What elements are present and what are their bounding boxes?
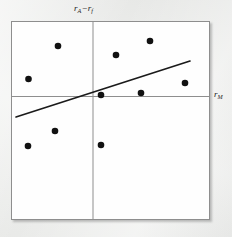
data-point: [55, 43, 62, 50]
plot-canvas: [11, 21, 210, 220]
horizontal-axis-subscript: M: [218, 93, 223, 100]
data-point: [52, 128, 59, 135]
data-point: [147, 38, 154, 45]
data-point: [138, 90, 145, 97]
vertical-axis-label: rA−rf: [74, 3, 93, 13]
vertical-axis-subscript-2: f: [91, 7, 93, 14]
data-point: [25, 76, 32, 83]
scatter-plot-figure: rA−rf rM: [0, 0, 232, 237]
data-point: [113, 52, 120, 59]
data-point: [182, 80, 189, 87]
characteristic-line: [16, 61, 190, 117]
data-point: [25, 143, 32, 150]
vertical-axis-subscript-1: A: [78, 7, 82, 14]
data-point: [98, 92, 105, 99]
horizontal-axis-label: rM: [214, 89, 223, 99]
data-point: [98, 142, 105, 149]
